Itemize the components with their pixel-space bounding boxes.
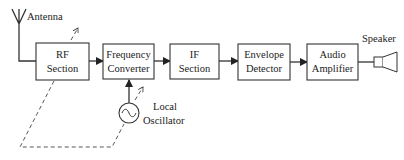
block-if-line1: IF [190,49,199,60]
block-fc-line2: Converter [108,63,150,74]
block-if-line2: Section [179,63,211,74]
tuning-arrow-lo [135,87,143,100]
block-env-line1: Envelope [244,49,284,60]
block-rf-section: RF Section [36,43,89,80]
block-envelope-detector: Envelope Detector [238,44,290,80]
block-env-line2: Detector [246,63,283,74]
antenna-label: Antenna [27,11,63,22]
block-fc-line1: Frequency [106,49,151,60]
oscillator-label-line1: Local [153,101,177,112]
receiver-diagram: Antenna RF Section Frequency Converter I… [0,0,404,160]
oscillator-icon [119,103,139,123]
block-audio-amplifier: Audio Amplifier [307,44,358,80]
block-aud-line1: Audio [319,49,345,60]
speaker-icon [374,52,397,72]
ganged-tuning-link [20,81,124,147]
oscillator-label-line2: Oscillator [143,115,185,126]
block-rf-line2: Section [47,63,79,74]
block-frequency-converter: Frequency Converter [103,44,154,79]
block-if-section: IF Section [170,44,219,79]
block-aud-line2: Amplifier [312,63,354,74]
block-rf-line1: RF [56,49,69,60]
tuning-arrow-rf [71,28,78,40]
speaker-label: Speaker [362,33,396,44]
